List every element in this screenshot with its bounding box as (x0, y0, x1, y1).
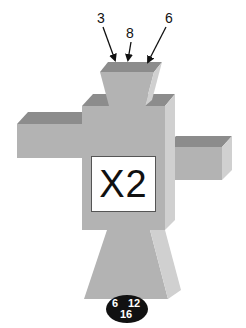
center-label: X2 (99, 163, 147, 206)
badge-bottom-number: 16 (120, 309, 132, 320)
badge-left-number: 6 (112, 298, 118, 309)
top-label-8: 8 (126, 26, 134, 40)
arrow-6 (148, 27, 166, 62)
arrows (103, 27, 166, 62)
top-label-3: 3 (97, 11, 105, 25)
arrow-8 (128, 42, 131, 60)
right-arm-block (165, 136, 232, 180)
top-label-6: 6 (165, 11, 173, 25)
number-badge: 6 12 16 (106, 295, 148, 323)
center-label-box: X2 (91, 156, 156, 212)
arrow-3 (103, 27, 115, 60)
left-arm-block (17, 112, 82, 158)
base-block (84, 230, 181, 299)
diagram-canvas: 3 8 6 X2 6 12 16 (0, 0, 246, 328)
